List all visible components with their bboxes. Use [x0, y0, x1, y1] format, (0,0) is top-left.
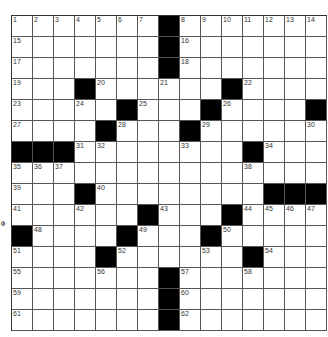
grid-cell[interactable] [54, 121, 75, 142]
grid-cell[interactable]: 27 [12, 121, 33, 142]
grid-cell[interactable] [285, 163, 306, 184]
grid-cell[interactable] [54, 205, 75, 226]
grid-cell[interactable] [117, 163, 138, 184]
grid-cell[interactable]: 58 [243, 268, 264, 289]
grid-cell[interactable]: 32 [96, 142, 117, 163]
grid-cell[interactable]: 15 [12, 37, 33, 58]
grid-cell[interactable] [201, 163, 222, 184]
grid-cell[interactable]: 62 [180, 310, 201, 331]
grid-cell[interactable] [222, 184, 243, 205]
grid-cell[interactable] [180, 205, 201, 226]
grid-cell[interactable]: 13 [285, 16, 306, 37]
grid-cell[interactable] [33, 289, 54, 310]
grid-cell[interactable] [264, 163, 285, 184]
grid-cell[interactable] [33, 184, 54, 205]
grid-cell[interactable]: 44 [243, 205, 264, 226]
grid-cell[interactable] [96, 58, 117, 79]
grid-cell[interactable] [180, 79, 201, 100]
grid-cell[interactable] [285, 310, 306, 331]
grid-cell[interactable] [159, 247, 180, 268]
grid-cell[interactable] [222, 58, 243, 79]
grid-cell[interactable] [138, 163, 159, 184]
grid-cell[interactable] [75, 58, 96, 79]
grid-cell[interactable] [117, 184, 138, 205]
grid-cell[interactable] [75, 310, 96, 331]
grid-cell[interactable] [201, 142, 222, 163]
grid-cell[interactable] [33, 37, 54, 58]
grid-cell[interactable] [285, 268, 306, 289]
grid-cell[interactable] [96, 163, 117, 184]
grid-cell[interactable] [306, 268, 327, 289]
grid-cell[interactable] [159, 100, 180, 121]
grid-cell[interactable] [264, 100, 285, 121]
grid-cell[interactable] [33, 58, 54, 79]
grid-cell[interactable] [138, 121, 159, 142]
grid-cell[interactable] [264, 226, 285, 247]
grid-cell[interactable]: 48 [33, 226, 54, 247]
grid-cell[interactable] [54, 268, 75, 289]
grid-cell[interactable]: 14 [306, 16, 327, 37]
grid-cell[interactable]: 10 [222, 16, 243, 37]
grid-cell[interactable]: 41 [12, 205, 33, 226]
grid-cell[interactable]: 45 [264, 205, 285, 226]
grid-cell[interactable] [243, 310, 264, 331]
grid-cell[interactable] [222, 289, 243, 310]
grid-cell[interactable]: 19 [12, 79, 33, 100]
grid-cell[interactable]: 33 [180, 142, 201, 163]
grid-cell[interactable] [243, 100, 264, 121]
grid-cell[interactable] [54, 247, 75, 268]
grid-cell[interactable] [201, 184, 222, 205]
grid-cell[interactable] [159, 226, 180, 247]
grid-cell[interactable]: 52 [117, 247, 138, 268]
grid-cell[interactable]: 17 [12, 58, 33, 79]
grid-cell[interactable] [306, 289, 327, 310]
grid-cell[interactable] [285, 289, 306, 310]
grid-cell[interactable]: 7 [138, 16, 159, 37]
grid-cell[interactable] [306, 58, 327, 79]
grid-cell[interactable] [306, 310, 327, 331]
grid-cell[interactable]: 34 [264, 142, 285, 163]
grid-cell[interactable] [306, 247, 327, 268]
grid-cell[interactable]: 55 [12, 268, 33, 289]
grid-cell[interactable] [54, 289, 75, 310]
grid-cell[interactable] [33, 310, 54, 331]
grid-cell[interactable] [285, 100, 306, 121]
grid-cell[interactable]: 37 [54, 163, 75, 184]
grid-cell[interactable] [75, 121, 96, 142]
grid-cell[interactable] [222, 37, 243, 58]
grid-cell[interactable] [138, 310, 159, 331]
grid-cell[interactable]: 22 [243, 79, 264, 100]
grid-cell[interactable] [117, 79, 138, 100]
grid-cell[interactable] [306, 142, 327, 163]
grid-cell[interactable] [75, 163, 96, 184]
grid-cell[interactable] [33, 205, 54, 226]
grid-cell[interactable] [75, 226, 96, 247]
grid-cell[interactable] [264, 37, 285, 58]
grid-cell[interactable] [54, 100, 75, 121]
grid-cell[interactable] [180, 184, 201, 205]
grid-cell[interactable] [138, 58, 159, 79]
grid-cell[interactable] [75, 37, 96, 58]
grid-cell[interactable] [285, 247, 306, 268]
grid-cell[interactable]: 56 [96, 268, 117, 289]
grid-cell[interactable] [54, 79, 75, 100]
grid-cell[interactable] [54, 184, 75, 205]
grid-cell[interactable]: 9 [201, 16, 222, 37]
grid-cell[interactable] [96, 226, 117, 247]
grid-cell[interactable] [117, 37, 138, 58]
grid-cell[interactable]: 2 [33, 16, 54, 37]
grid-cell[interactable] [54, 310, 75, 331]
grid-cell[interactable]: 12 [264, 16, 285, 37]
grid-cell[interactable] [33, 79, 54, 100]
grid-cell[interactable]: 28 [117, 121, 138, 142]
grid-cell[interactable] [96, 205, 117, 226]
grid-cell[interactable]: 59 [12, 289, 33, 310]
grid-cell[interactable]: 23 [12, 100, 33, 121]
grid-cell[interactable] [180, 163, 201, 184]
grid-cell[interactable]: 46 [285, 205, 306, 226]
grid-cell[interactable] [75, 268, 96, 289]
grid-cell[interactable] [159, 184, 180, 205]
grid-cell[interactable]: 8 [180, 16, 201, 37]
grid-cell[interactable] [54, 37, 75, 58]
grid-cell[interactable]: 61 [12, 310, 33, 331]
